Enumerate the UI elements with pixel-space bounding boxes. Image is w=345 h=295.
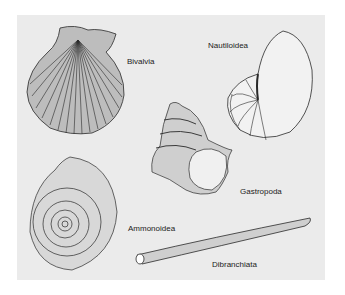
label-bivalvia: Bivalvia xyxy=(127,57,155,66)
mollusc-illustrations xyxy=(0,0,345,295)
label-ammonoidea: Ammonoidea xyxy=(128,224,175,233)
label-dibranchiata: Dibranchiata xyxy=(212,260,257,269)
bivalvia-shell-drawing xyxy=(27,26,124,134)
gastropoda-shell-drawing xyxy=(152,102,232,194)
label-gastropoda: Gastropoda xyxy=(240,187,282,196)
label-nautiloidea: Nautiloidea xyxy=(208,41,248,50)
ammonoidea-shell-drawing xyxy=(30,157,117,270)
